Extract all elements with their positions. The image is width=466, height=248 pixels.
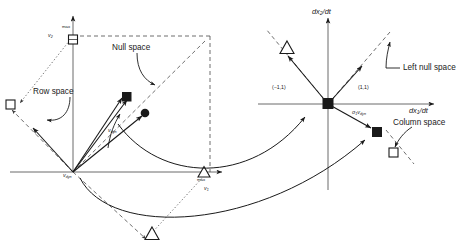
filled-square-marker <box>372 127 382 137</box>
open-square-marker <box>389 148 398 157</box>
domain-dotted-to-open-square <box>20 40 70 103</box>
domain-vector-to-filled-circle <box>73 116 142 172</box>
fundamental-subspaces-figure <box>0 0 466 248</box>
mapping-arrow-upper <box>118 117 305 168</box>
column-space-leader <box>395 127 412 147</box>
mapping-arrow-lower <box>80 140 365 217</box>
filled-circle-marker <box>141 109 150 118</box>
open-triangle-marker <box>145 227 159 240</box>
left-null-space-leader <box>386 42 390 68</box>
open-square-marker <box>6 100 15 109</box>
domain-null-space-diagonal <box>73 39 207 172</box>
filled-square-marker <box>323 98 334 109</box>
open-triangle-marker <box>280 41 294 54</box>
range-dashed-lower-right <box>386 130 414 164</box>
domain-vector-upper-left <box>33 128 73 172</box>
range-plane-group <box>258 18 434 190</box>
range-vector-sigma-v <box>328 104 371 128</box>
domain-plane-group <box>6 16 222 240</box>
filled-square-marker <box>122 92 132 102</box>
domain-dotted-to-bottom-triangle <box>149 176 204 236</box>
row-space-leader <box>47 97 70 120</box>
range-vector-upper-left <box>288 56 328 104</box>
domain-vector-steep <box>73 98 122 172</box>
domain-vector-to-filled-square <box>73 100 127 172</box>
null-space-leader <box>137 53 155 85</box>
